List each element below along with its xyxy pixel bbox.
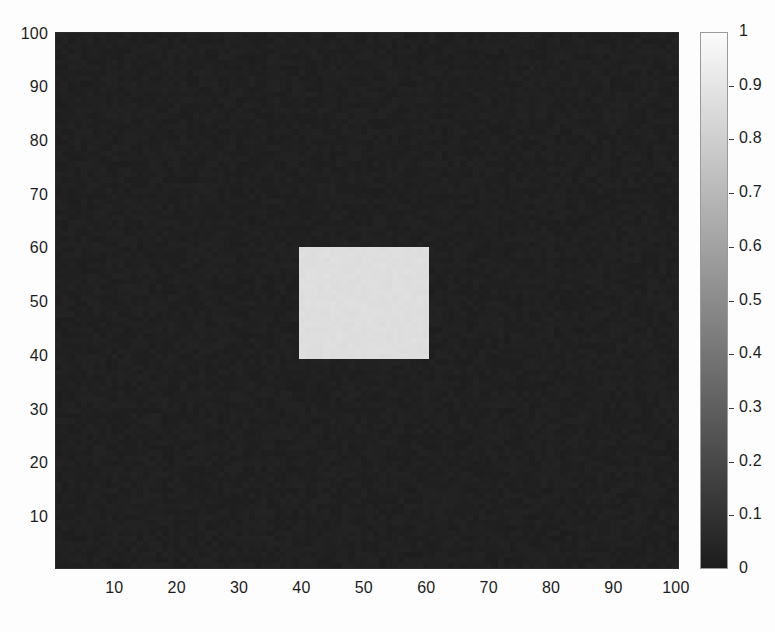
y-axis-tick-label: 50: [30, 293, 48, 311]
heatmap-image: [56, 33, 678, 568]
y-axis-tick-label: 70: [30, 186, 48, 204]
colorbar-tick-mark: [729, 193, 734, 194]
colorbar-tick-label: 0.9: [739, 76, 762, 94]
colorbar-tick-label: 0.2: [739, 452, 762, 470]
x-axis-tick-label: 60: [396, 579, 456, 597]
x-axis-tick-label: 20: [147, 579, 207, 597]
colorbar-tick-mark: [729, 86, 734, 87]
colorbar-tick-label: 0.5: [739, 291, 762, 309]
y-axis-tick-label: 30: [30, 401, 48, 419]
colorbar-tick-mark: [729, 301, 734, 302]
colorbar-tick-label: 0.1: [739, 505, 762, 523]
x-axis-tick-label: 30: [209, 579, 269, 597]
colorbar-tick-mark: [729, 515, 734, 516]
colorbar: [700, 32, 728, 569]
colorbar-tick-mark: [729, 139, 734, 140]
x-axis-tick-label: 40: [271, 579, 331, 597]
heatmap-axes: [55, 32, 679, 569]
y-axis-tick-label: 100: [21, 25, 48, 43]
colorbar-tick-mark: [729, 462, 734, 463]
x-axis-tick-label: 50: [334, 579, 394, 597]
figure-canvas: 102030405060708090100 102030405060708090…: [0, 0, 775, 632]
colorbar-tick-label: 0.7: [739, 183, 762, 201]
x-axis-tick-label: 70: [459, 579, 519, 597]
y-axis-tick-label: 80: [30, 132, 48, 150]
x-axis-tick-label: 100: [646, 579, 706, 597]
y-axis-tick-label: 90: [30, 78, 48, 96]
x-axis-tick-label: 10: [84, 579, 144, 597]
y-axis-tick-label: 40: [30, 347, 48, 365]
y-axis-tick-label: 20: [30, 454, 48, 472]
colorbar-tick-label: 0: [739, 559, 748, 577]
colorbar-tick-mark: [729, 354, 734, 355]
y-axis-tick-label: 10: [30, 508, 48, 526]
colorbar-tick-label: 0.3: [739, 398, 762, 416]
colorbar-tick-mark: [729, 408, 734, 409]
x-axis-tick-label: 90: [583, 579, 643, 597]
colorbar-tick-label: 1: [739, 22, 748, 40]
colorbar-tick-mark: [729, 247, 734, 248]
x-axis-tick-label: 80: [521, 579, 581, 597]
colorbar-tick-label: 0.4: [739, 344, 762, 362]
colorbar-tick-label: 0.6: [739, 237, 762, 255]
colorbar-tick-label: 0.8: [739, 129, 762, 147]
y-axis-tick-label: 60: [30, 239, 48, 257]
